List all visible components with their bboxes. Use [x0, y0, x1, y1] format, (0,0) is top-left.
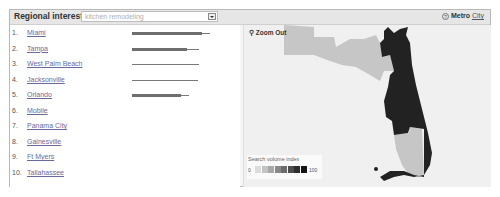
city-link[interactable]: Orlando	[27, 91, 52, 98]
legend-swatch	[301, 166, 307, 173]
panel-title: Regional interest	[14, 11, 83, 21]
zoom-out-button[interactable]: ⚲ Zoom Out	[249, 29, 287, 37]
list-item: 1.Miami	[10, 27, 240, 41]
legend-title: Search volume index	[248, 156, 299, 162]
legend-swatch	[281, 166, 287, 173]
city-link[interactable]: West Palm Beach	[27, 60, 83, 67]
list-item: 5.Orlando	[10, 89, 240, 103]
legend-max: 100	[309, 167, 317, 173]
city-link[interactable]: Mobile	[27, 107, 48, 114]
volume-bar-line	[132, 80, 198, 81]
legend-swatch	[262, 166, 268, 173]
rank-number: 6.	[12, 107, 24, 114]
volume-bar	[132, 32, 202, 35]
rank-number: 10.	[12, 169, 24, 176]
city-option-link[interactable]: City	[472, 12, 484, 19]
list-item: 10.Tallahassee	[10, 167, 240, 181]
rank-number: 3.	[12, 60, 24, 67]
city-link[interactable]: Ft Myers	[27, 153, 54, 160]
regional-interest-panel: Regional interest kitchen remodeling ?Me…	[9, 9, 491, 187]
zoom-out-label: Zoom Out	[256, 29, 287, 36]
region-list: 1.Miami2.Tampa3.West Palm Beach4.Jackson…	[10, 25, 240, 187]
view-mode-toggle: ?Metro City	[442, 12, 484, 20]
metro-option: Metro	[451, 12, 470, 19]
legend-swatch	[268, 166, 274, 173]
map-legend: Search volume index 0 100	[247, 155, 322, 179]
city-link[interactable]: Panama City	[27, 122, 67, 129]
legend-swatch	[255, 166, 261, 173]
question-circle-icon[interactable]: ?	[442, 13, 449, 20]
legend-min: 0	[248, 167, 251, 173]
list-item: 9.Ft Myers	[10, 151, 240, 165]
list-item: 8.Gainesville	[10, 136, 240, 150]
list-item: 7.Panama City	[10, 120, 240, 134]
query-select[interactable]: kitchen remodeling	[81, 11, 218, 22]
city-link[interactable]: Gainesville	[27, 138, 61, 145]
volume-bar	[132, 48, 187, 51]
rank-number: 2.	[12, 45, 24, 52]
dropdown-arrow-icon[interactable]	[208, 13, 216, 20]
list-item: 6.Mobile	[10, 105, 240, 119]
query-select-value: kitchen remodeling	[85, 12, 144, 22]
volume-bar-line	[132, 64, 199, 65]
list-item: 2.Tampa	[10, 43, 240, 57]
city-link[interactable]: Tampa	[27, 45, 48, 52]
region-map[interactable]: ⚲ Zoom Out Search volume index 0 100	[243, 25, 491, 187]
legend-swatch	[294, 166, 300, 173]
list-item: 3.West Palm Beach	[10, 58, 240, 72]
rank-number: 7.	[12, 122, 24, 129]
city-link[interactable]: Jacksonville	[27, 76, 65, 83]
city-link[interactable]: Miami	[27, 29, 46, 36]
volume-bar	[132, 94, 181, 97]
rank-number: 9.	[12, 153, 24, 160]
city-link[interactable]: Tallahassee	[27, 169, 64, 176]
rank-number: 8.	[12, 138, 24, 145]
panel-header: Regional interest kitchen remodeling ?Me…	[10, 10, 490, 25]
rank-number: 5.	[12, 91, 24, 98]
legend-swatch	[288, 166, 294, 173]
legend-swatch	[275, 166, 281, 173]
magnifier-minus-icon: ⚲	[249, 29, 254, 36]
rank-number: 1.	[12, 29, 24, 36]
rank-number: 4.	[12, 76, 24, 83]
list-item: 4.Jacksonville	[10, 74, 240, 88]
